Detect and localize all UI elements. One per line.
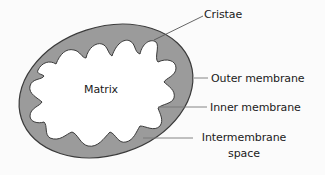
cristae-label: Cristae (204, 8, 242, 21)
intermembrane-space-label-line1: Intermembrane (196, 131, 292, 144)
matrix-label: Matrix (84, 83, 118, 96)
intermembrane-space-label: Intermembrane space (196, 131, 292, 160)
mitochondrion-diagram: Matrix Cristae Outer membrane Inner memb… (0, 0, 325, 175)
outer-membrane-label: Outer membrane (211, 72, 305, 85)
inner-membrane-label: Inner membrane (210, 101, 301, 114)
intermembrane-space-label-line2: space (196, 147, 292, 160)
cristae-leader-line (154, 16, 203, 40)
